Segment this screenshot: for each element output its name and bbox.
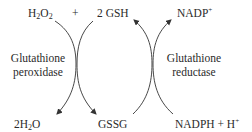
arrow-gssg-to-gsh [133,20,152,114]
enzyme-glutathione-peroxidase: Glutathione peroxidase [6,51,70,79]
arrow-gsh-to-gssg [77,21,96,114]
label-hydrogen-peroxide: H2O2 [28,8,53,20]
label-water: 2H2O [14,119,40,131]
label-nadp-plus: NADP+ [177,8,212,20]
enzyme-name-line2: peroxidase [6,65,70,79]
enzyme-name-line1: Glutathione [6,51,70,65]
enzyme-name-line1: Glutathione [162,51,226,65]
enzyme-name-line2: reductase [162,65,226,79]
label-nadph-h-plus: NADPH + H+ [175,119,239,131]
label-oxidized-glutathione: GSSG [98,119,127,131]
label-plus: + [72,8,79,20]
glutathione-cycle-diagram: H2O2 + 2 GSH NADP+ Glutathione peroxidas… [0,0,252,132]
label-reduced-glutathione: 2 GSH [97,8,129,20]
enzyme-glutathione-reductase: Glutathione reductase [162,51,226,79]
